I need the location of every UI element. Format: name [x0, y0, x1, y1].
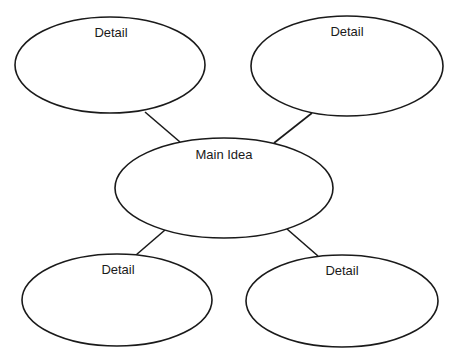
connector-bottom-right	[287, 229, 318, 256]
detail-node-top-right: Detail	[251, 16, 443, 116]
detail-node-bottom-left: Detail	[22, 254, 212, 346]
connector-top-right	[274, 113, 312, 143]
web-diagram: Detail Detail Main Idea Detail Detail	[0, 0, 460, 362]
connector-top-left	[145, 112, 180, 142]
main-idea-node: Main Idea	[115, 138, 333, 238]
detail-label: Detail	[330, 24, 363, 39]
detail-node-bottom-right: Detail	[246, 255, 438, 347]
detail-label: Detail	[94, 25, 127, 40]
detail-label: Detail	[325, 263, 358, 278]
detail-node-top-left: Detail	[15, 17, 205, 113]
connector-bottom-left	[136, 230, 165, 255]
main-idea-label: Main Idea	[195, 147, 253, 162]
detail-label: Detail	[101, 262, 134, 277]
